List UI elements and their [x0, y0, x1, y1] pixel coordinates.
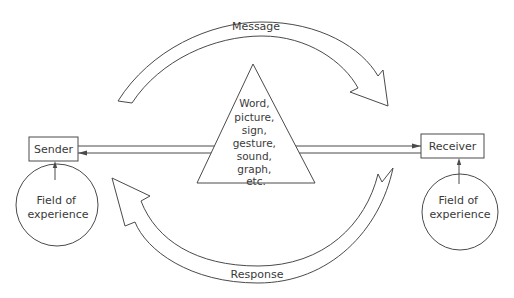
arrow-up-icon: [457, 158, 461, 165]
media-item: etc.: [246, 175, 266, 187]
media-item: Word,: [239, 97, 269, 109]
receiver-node: Receiver Field of experience: [421, 134, 498, 250]
arrowhead-to-sender-icon: [78, 151, 87, 156]
svg-text:Field of experience: Field of experience: [28, 194, 89, 221]
media-item: picture,: [234, 111, 274, 123]
response-label: Response: [231, 268, 284, 281]
sender-label: Sender: [34, 143, 73, 156]
media-triangle: Word, picture, sign, gesture, sound, gra…: [197, 64, 315, 187]
receiver-field-line: experience: [430, 208, 491, 221]
sender-field-line: Field of: [37, 194, 78, 207]
media-item: sound,: [237, 150, 272, 162]
communication-diagram: Message Response Word, picture, sign, ge…: [0, 0, 514, 298]
svg-text:Word, picture, sig: Word, picture, sign, gesture, sound, gra…: [233, 97, 280, 187]
message-label: Message: [232, 20, 280, 33]
svg-text:Field of experience: Field of experience: [430, 194, 491, 221]
media-item: graph,: [237, 163, 271, 175]
receiver-field-line: Field of: [439, 194, 480, 207]
media-item: sign,: [242, 124, 267, 136]
sender-field-line: experience: [28, 208, 89, 221]
receiver-label: Receiver: [429, 140, 477, 153]
media-item: gesture,: [233, 137, 276, 149]
arrowhead-to-receiver-icon: [412, 144, 421, 149]
